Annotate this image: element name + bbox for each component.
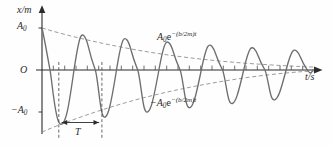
y-tick-label-a0: A0 [17,20,27,33]
y-tick-label-neg-a0: −A0 [11,104,27,117]
period-label: T [75,126,81,137]
period-arrow [62,120,100,125]
x-axis-label: t/s [305,71,314,82]
origin-label: O [20,64,27,75]
chart-canvas [0,0,332,147]
lower-envelope-label: −A0e−(b/2m)t [150,96,196,110]
upper-envelope-label: A0e−(b/2m)t [157,30,197,44]
damped-oscillation-figure: x/m A0 O −A0 t/s A0e−(b/2m)t −A0e−(b/2m)… [0,0,332,147]
y-axis-label: x/m [17,4,31,15]
